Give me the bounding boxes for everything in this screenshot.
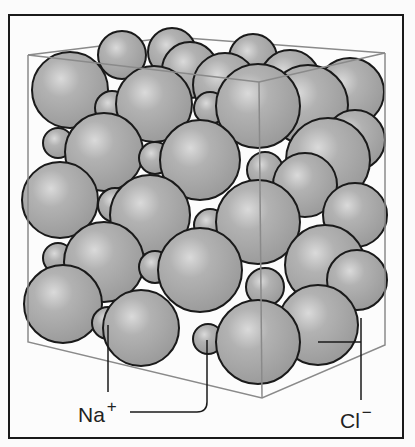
sodium-ion-label: Na+ [78, 399, 117, 427]
chloride-ion-label: Cl− [340, 405, 372, 433]
spheres [22, 28, 387, 384]
nacl-lattice-diagram [0, 0, 415, 447]
